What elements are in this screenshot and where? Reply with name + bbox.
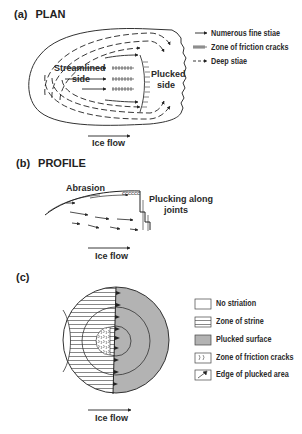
panel-b-heading: (b)PROFILE [16,157,86,169]
panel-b-title: PROFILE [38,157,86,169]
abrasion-label: Abrasion [66,183,105,193]
legend-fine-striae: Numerous fine stiae [211,28,280,38]
circular-legend-swatches [195,299,211,380]
plucked-label-line2: side [157,80,175,90]
plucked-label-line1: Plucked [151,69,186,79]
plucking-label-line1: Plucking along [149,194,213,204]
panel-c-letter: (c) [16,271,29,283]
legend-friction-cracks: Zone of friction cracks [211,42,288,52]
legend-edge-plucked-area: Edge of plucked area [216,369,289,379]
plan-ice-flow-label: Ice flow [92,138,125,148]
circular-ice-flow-label: Ice flow [95,413,128,423]
legend-deep-striae: Deep stiae [211,56,247,66]
circular-diagram [55,285,175,397]
profile-graphics: cccccc [45,190,150,231]
panel-c-heading: (c) [16,271,29,283]
legend-plucked-surface: Plucked surface [216,334,271,344]
streamlined-label-line2: side [72,74,90,84]
legend-no-striation: No striation [216,298,256,308]
friction-crack-arrows [112,66,134,91]
profile-ice-flow-label: Ice flow [95,251,128,261]
streamlined-label-line1: Streamlined [54,63,106,73]
plan-legend-icons [193,33,207,61]
legend-zone-of-striae: Zone of strine [216,316,264,326]
panel-b-letter: (b) [16,157,30,169]
legend-zone-friction-cracks: Zone of friction cracks [216,352,293,362]
plucking-label-line2: joints [164,205,188,215]
